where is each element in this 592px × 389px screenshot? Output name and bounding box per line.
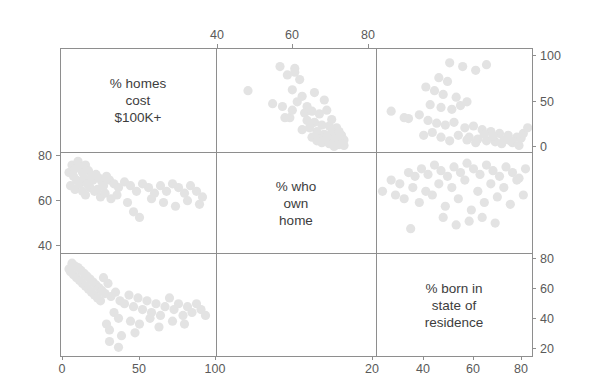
data-point <box>154 322 163 331</box>
data-point <box>195 200 204 209</box>
data-point <box>512 175 521 184</box>
axis-right-lower-label: 60 <box>540 282 554 296</box>
data-point <box>415 198 424 207</box>
data-point <box>295 75 304 84</box>
data-point <box>201 311 210 320</box>
data-point <box>447 183 456 192</box>
data-point <box>445 58 454 67</box>
data-point <box>430 86 439 95</box>
data-point <box>421 82 430 91</box>
axis-right-upper-label: 50 <box>540 95 554 109</box>
data-point <box>491 218 500 227</box>
data-point <box>183 196 192 205</box>
data-point <box>112 190 121 199</box>
diagonal-label-line: residence <box>425 315 484 330</box>
data-point <box>439 90 448 99</box>
data-point <box>187 308 196 317</box>
data-point <box>480 130 489 139</box>
data-point <box>423 170 432 179</box>
data-point <box>103 279 112 288</box>
data-point <box>330 142 339 151</box>
diagonal-label-line: % who <box>276 179 317 194</box>
data-point <box>102 319 111 328</box>
data-point <box>497 139 506 148</box>
panel-points <box>64 259 210 352</box>
axis-bottom-right-label: 60 <box>466 362 480 376</box>
data-point <box>471 138 480 147</box>
data-point <box>302 116 311 125</box>
data-point <box>165 293 174 302</box>
data-point <box>471 66 480 75</box>
data-point <box>298 125 307 134</box>
data-point <box>339 141 348 150</box>
diagonal-label-line: home <box>279 213 313 228</box>
data-point <box>419 131 428 140</box>
data-point <box>415 110 424 119</box>
data-point <box>406 224 415 233</box>
axis-top-label: 80 <box>361 28 375 42</box>
axis-bottom-left-label: 0 <box>59 362 66 376</box>
data-point <box>132 187 141 196</box>
data-point <box>268 99 277 108</box>
data-point <box>462 135 471 144</box>
data-point <box>114 314 123 323</box>
data-point <box>378 187 387 196</box>
data-point <box>120 299 129 308</box>
data-point <box>452 220 461 229</box>
data-point <box>404 114 413 123</box>
data-point <box>391 190 400 199</box>
data-point <box>506 200 515 209</box>
data-point <box>133 293 142 302</box>
data-point <box>178 311 187 320</box>
data-point <box>105 337 114 346</box>
data-point <box>168 317 177 326</box>
axis-bottom-left-label: 100 <box>205 362 226 376</box>
data-point <box>117 331 126 340</box>
diagonal-label-line: % born in <box>425 281 482 296</box>
axis-left-label: 40 <box>38 239 52 253</box>
diagonal-panel-label: % born instate ofresidence <box>425 281 484 330</box>
data-point <box>114 343 123 352</box>
axis-top-label: 60 <box>285 28 299 42</box>
data-point <box>288 85 297 94</box>
diagonal-panel-label: % whoownhome <box>276 179 317 228</box>
data-point <box>96 296 105 305</box>
data-point <box>320 95 329 104</box>
data-point <box>439 213 448 222</box>
data-point <box>499 183 508 192</box>
data-point <box>310 88 319 97</box>
data-point <box>482 60 491 69</box>
axis-right-upper-label: 100 <box>540 49 561 63</box>
data-point <box>159 198 168 207</box>
data-point <box>423 116 432 125</box>
data-point <box>469 121 478 130</box>
data-point <box>454 194 463 203</box>
axis-right-lower-label: 20 <box>540 342 554 356</box>
data-point <box>519 190 528 199</box>
data-point <box>514 141 523 150</box>
data-point <box>443 77 452 86</box>
data-point <box>428 190 437 199</box>
data-point <box>434 179 443 188</box>
data-point <box>449 118 458 127</box>
axis-left-label: 80 <box>38 149 52 163</box>
diagonal-label-line: $100K+ <box>115 110 162 125</box>
diagonal-label-line: cost <box>126 93 151 108</box>
data-point <box>395 179 404 188</box>
axis-bottom-right-label: 40 <box>416 362 430 376</box>
data-point <box>312 136 321 145</box>
data-point <box>322 133 331 142</box>
data-point <box>334 127 343 136</box>
data-point <box>432 119 441 128</box>
data-point <box>174 299 183 308</box>
axis-top-label: 40 <box>210 28 224 42</box>
data-point <box>156 311 165 320</box>
data-point <box>111 288 120 297</box>
data-point <box>410 172 419 181</box>
data-point <box>434 73 443 82</box>
data-point <box>288 106 297 115</box>
panel-points <box>387 58 533 150</box>
data-point <box>443 172 452 181</box>
data-point <box>327 115 336 124</box>
data-point <box>145 314 154 323</box>
